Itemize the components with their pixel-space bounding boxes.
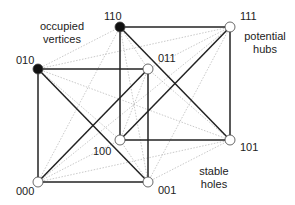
node-110 [115,22,125,32]
node-111 [225,22,235,32]
annotation-hubs: potential [244,30,286,42]
node-label-111: 111 [240,10,257,22]
annotation-occupied: occupied [40,20,84,32]
dotted-edges [38,27,230,182]
annotation-holes: holes [201,178,228,190]
dotted-edge-000-110 [38,27,120,182]
node-000 [33,177,43,187]
node-label-110: 110 [104,10,122,22]
annotation-hubs: hubs [253,43,277,55]
annotation-holes: stable [199,165,228,177]
node-label-011: 011 [158,52,176,64]
node-label-101: 101 [240,141,258,153]
annotations: occupiedverticespotentialhubsstableholes [40,20,286,190]
node-label-010: 010 [16,54,34,66]
dotted-edge-001-111 [148,27,230,182]
node-011 [143,64,153,74]
node-label-001: 001 [158,184,176,196]
node-label-000: 000 [16,185,34,197]
annotation-occupied: vertices [43,33,81,45]
node-101 [225,135,235,145]
hypercube-diagram: 110111010011100101000001 occupiedvertice… [0,0,295,205]
node-001 [143,177,153,187]
node-100 [115,135,125,145]
node-010 [33,64,43,74]
node-label-100: 100 [93,145,111,157]
